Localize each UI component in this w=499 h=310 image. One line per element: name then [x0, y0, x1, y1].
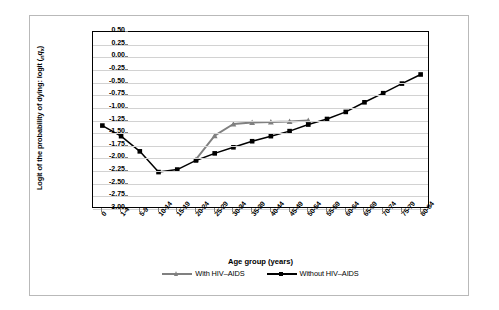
- data-point-marker: [119, 134, 124, 139]
- y-axis-tick: [125, 145, 128, 146]
- grid-line: [93, 70, 428, 71]
- y-axis-tick-label: -2.75: [97, 190, 125, 197]
- legend-label: Without HIV–AIDS: [300, 269, 359, 278]
- data-point-marker: [250, 139, 255, 144]
- legend-item[interactable]: With HIV–AIDS: [162, 269, 244, 278]
- triangle-icon: [174, 271, 178, 276]
- legend-label: With HIV–AIDS: [195, 269, 244, 278]
- data-point-marker: [306, 122, 311, 127]
- y-axis-tick: [125, 132, 128, 133]
- grid-line: [93, 121, 428, 122]
- chart-legend: With HIV–AIDSWithout HIV–AIDS: [92, 269, 429, 278]
- y-axis-sub-x: x: [39, 48, 45, 51]
- y-axis-tick-label: -1.50: [97, 127, 125, 134]
- y-axis-tick: [125, 31, 128, 32]
- data-point-marker: [362, 100, 367, 105]
- figure-frame: Logit of the probability of dying: logit…: [29, 15, 469, 296]
- grid-line: [93, 83, 428, 84]
- y-axis-tick: [125, 44, 128, 45]
- y-axis-tick: [125, 69, 128, 70]
- y-axis-tick: [125, 170, 128, 171]
- y-axis-tick-label: -1.00: [97, 102, 125, 109]
- y-axis-tick-label: -1.25: [97, 115, 125, 122]
- grid-line: [93, 133, 428, 134]
- y-axis-tick: [125, 183, 128, 184]
- y-axis-tick-label: 0.00: [97, 51, 125, 58]
- data-point-marker: [418, 72, 423, 77]
- y-axis-tick: [125, 120, 128, 121]
- data-point-marker: [138, 149, 143, 154]
- data-point-marker: [343, 110, 348, 115]
- y-axis-tick: [125, 82, 128, 83]
- y-axis-tick-label: -0.75: [97, 89, 125, 96]
- grid-line: [93, 95, 428, 96]
- data-point-marker: [269, 134, 274, 139]
- data-point-marker: [212, 151, 217, 156]
- grid-line: [93, 158, 428, 159]
- y-axis-q: q: [35, 51, 44, 55]
- y-axis-tick-label: -2.00: [97, 152, 125, 159]
- legend-swatch: [162, 269, 192, 278]
- square-icon: [279, 272, 284, 277]
- y-axis-tick: [125, 94, 128, 95]
- y-axis-tick-label: -2.50: [97, 178, 125, 185]
- legend-swatch: [267, 269, 297, 278]
- y-axis-tick-label: 0.50: [97, 26, 125, 33]
- grid-line: [93, 196, 428, 197]
- y-axis-tick-label: 0.25: [97, 39, 125, 46]
- y-axis-title: Logit of the probability of dying: logit…: [33, 24, 47, 212]
- x-axis-tick-label: 0: [100, 210, 108, 217]
- legend-item[interactable]: Without HIV–AIDS: [267, 269, 359, 278]
- y-axis-tick-label: -0.25: [97, 64, 125, 71]
- y-axis-tick: [125, 195, 128, 196]
- y-axis-sub-n: n: [39, 56, 45, 59]
- y-axis-tick: [125, 107, 128, 108]
- grid-line: [93, 108, 428, 109]
- y-axis-tick-label: -1.75: [97, 140, 125, 147]
- grid-line: [93, 171, 428, 172]
- grid-line: [93, 146, 428, 147]
- plot-area: [92, 31, 429, 208]
- grid-line: [93, 184, 428, 185]
- grid-line: [93, 57, 428, 58]
- y-axis-tick: [125, 56, 128, 57]
- y-axis-tick-label: -0.50: [97, 77, 125, 84]
- x-axis-title: Age group (years): [92, 257, 429, 266]
- y-axis-tick: [125, 157, 128, 158]
- y-axis-tick-label: -2.25: [97, 165, 125, 172]
- grid-line: [93, 45, 428, 46]
